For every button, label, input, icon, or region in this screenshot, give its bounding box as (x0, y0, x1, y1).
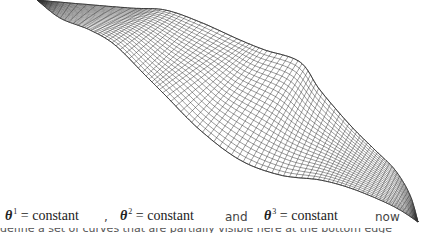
mesh-lines (37, 0, 418, 222)
cut-text: define a set of curves that are partiall… (0, 228, 392, 233)
cut-off-text-line: define a set of curves that are partiall… (0, 228, 423, 233)
curvilinear-mesh-surface (0, 0, 423, 233)
